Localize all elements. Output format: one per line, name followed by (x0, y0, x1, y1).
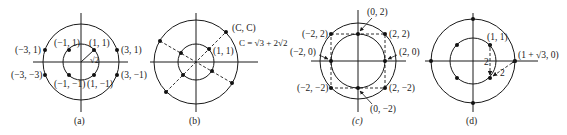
point (207, 47, 211, 51)
caption: (c) (352, 116, 363, 127)
panel-a: (−3, 1) (3, 1) (−3, −3) (3, −1) (−1, 1) … (11, 13, 147, 127)
point (488, 43, 492, 47)
distance-label: 2 (500, 68, 505, 78)
label: (3, −1) (121, 70, 147, 81)
point (164, 90, 168, 94)
point (181, 73, 185, 77)
point (43, 48, 47, 52)
point (455, 43, 459, 47)
caption: (b) (189, 116, 200, 127)
label: (0, 2) (367, 7, 388, 18)
constellation-diagrams: (−3, 1) (3, 1) (−3, −3) (3, −1) (−1, 1) … (0, 0, 567, 135)
point (356, 32, 360, 36)
point (329, 59, 333, 63)
label: (−3, 1) (15, 45, 41, 56)
point (488, 76, 492, 80)
point (230, 81, 234, 85)
label: (C, C) (232, 23, 256, 34)
point (513, 59, 517, 63)
label: (2, −2) (389, 83, 415, 94)
point (329, 32, 333, 36)
label: (−3, −3) (11, 70, 42, 81)
point (329, 86, 333, 90)
label: (−1, −1) (54, 79, 85, 90)
point (115, 73, 119, 77)
panel-b: (C, C) (1, 1) C = √3 + 2√2 (b) (150, 13, 288, 127)
label: (3, 1) (121, 45, 142, 56)
point (92, 73, 96, 77)
caption: (d) (466, 116, 477, 127)
point (455, 76, 459, 80)
point (383, 59, 387, 63)
label: (1, 1) (89, 38, 110, 49)
panel-d: (1, 1) (1 + √3, 0) 2 2 (d) (425, 13, 559, 127)
radius-label: √2 (90, 55, 99, 65)
label: C = √3 + 2√2 (239, 38, 288, 48)
caption: (a) (74, 116, 85, 127)
point (67, 73, 71, 77)
point (383, 86, 387, 90)
label: (−1, 1) (54, 38, 80, 49)
point (92, 48, 96, 52)
point (471, 101, 475, 105)
point (115, 48, 119, 52)
label: (1, −1) (87, 79, 113, 90)
label: (−2, 2) (302, 29, 328, 40)
point (429, 59, 433, 63)
panel-c: (0, 2) (−2, 2) (2, 2) (−2, 0) (2, 0) (−2… (290, 7, 420, 127)
point (356, 86, 360, 90)
point (224, 30, 228, 34)
point (158, 39, 162, 43)
label: (2, 0) (399, 47, 420, 58)
distance-label: 2 (484, 57, 489, 67)
label: (2, 2) (389, 29, 410, 40)
point (383, 32, 387, 36)
label: (−2, 0) (290, 47, 316, 58)
point (471, 17, 475, 21)
point (210, 69, 214, 73)
point (179, 51, 183, 55)
point (43, 73, 47, 77)
label: (0, −2) (370, 104, 396, 115)
label: (1, 1) (487, 32, 508, 43)
label: (1, 1) (213, 46, 234, 57)
label: (−2, −2) (297, 83, 328, 94)
label: (1 + √3, 0) (518, 50, 559, 61)
point (67, 48, 71, 52)
